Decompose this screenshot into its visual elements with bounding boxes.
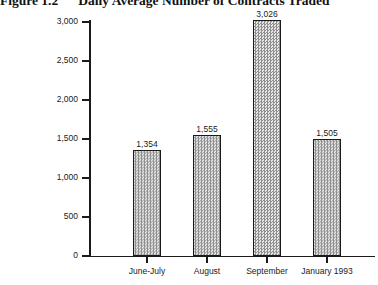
bar (193, 135, 221, 256)
bar-value-label: 3,026 (256, 9, 277, 19)
y-axis-tick (82, 177, 90, 179)
figure-title: Figure 1.2Daily Average Number of Contra… (0, 0, 378, 9)
x-axis-category-label: June-July (129, 266, 165, 276)
bar-value-label: 1,354 (136, 139, 157, 149)
y-axis-tick (82, 216, 90, 218)
y-axis-label: 1,000 (44, 173, 78, 182)
figure-title-text: Daily Average Number of Contracts Traded (78, 0, 329, 8)
bar (253, 20, 281, 256)
y-axis-label: 1,500 (44, 134, 78, 143)
y-axis-tick (82, 99, 90, 101)
y-axis-label: 2,500 (44, 56, 78, 65)
x-axis-tick (266, 256, 268, 263)
y-axis-tick (82, 21, 90, 23)
y-axis-tick (82, 60, 90, 62)
y-axis-label: 0 (44, 251, 78, 260)
figure-number: Figure 1.2 (0, 0, 58, 8)
x-axis-category-label: August (194, 266, 220, 276)
bar-value-label: 1,505 (316, 128, 337, 138)
bar-value-label: 1,555 (196, 124, 217, 134)
x-axis-category-label: September (246, 266, 288, 276)
x-axis-tick (326, 256, 328, 263)
x-axis-tick (206, 256, 208, 263)
y-axis-tick (82, 138, 90, 140)
bar (133, 150, 161, 256)
y-axis-label: 2,000 (44, 95, 78, 104)
y-axis-tick (82, 255, 90, 257)
bar (313, 139, 341, 256)
y-axis-label: 3,000 (44, 17, 78, 26)
figure-container: Figure 1.2Daily Average Number of Contra… (0, 0, 378, 285)
y-axis-label: 500 (44, 212, 78, 221)
x-axis-category-label: January 1993 (301, 266, 353, 276)
x-axis-tick (146, 256, 148, 263)
